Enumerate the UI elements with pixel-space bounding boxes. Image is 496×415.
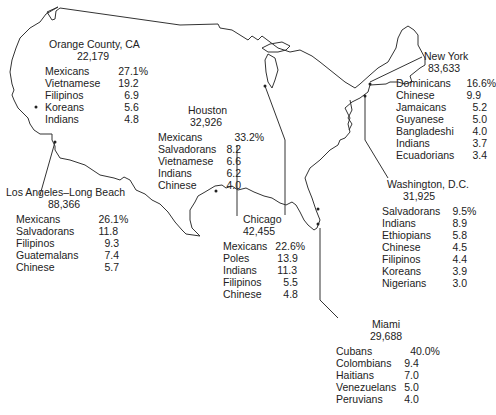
city-name: Washington, D.C. <box>371 178 476 190</box>
group-table: Cubans40.0% Colombians9.4 Haitians7.0 Ve… <box>336 345 440 405</box>
table-row: Guatemalans7.4 <box>16 249 128 261</box>
table-row: Haitians7.0 <box>336 369 440 381</box>
table-row: Salvadorans9.5% <box>382 205 476 217</box>
city-label-chicago: Chicago 42,455 Mexicans22.6% Poles13.9 I… <box>223 213 305 300</box>
table-row: Mexicans33.2% <box>158 131 264 143</box>
table-row: Dominicans16.6% <box>396 77 496 89</box>
city-label-washington-dc: Washington, D.C. 31,925 Salvadorans9.5% … <box>371 178 476 289</box>
table-row: Mexicans22.6% <box>223 240 305 252</box>
city-name: New York <box>396 50 496 62</box>
table-row: Indians11.3 <box>223 264 305 276</box>
table-row: Colombians9.4 <box>336 357 440 369</box>
city-label-new-york: New York 83,633 Dominicans16.6% Chinese9… <box>396 50 496 161</box>
table-row: Chinese9.9 <box>396 89 496 101</box>
city-total: 32,926 <box>158 116 264 128</box>
table-row: Bangladeshi4.0 <box>396 125 496 137</box>
table-row: Chinese5.7 <box>16 261 128 273</box>
table-row: Koreans3.9 <box>382 265 476 277</box>
table-row: Indians8.9 <box>382 217 476 229</box>
table-row: Mexicans27.1% <box>45 65 148 77</box>
city-total: 29,688 <box>334 330 440 342</box>
city-name: Chicago <box>223 213 305 225</box>
table-row: Salvadorans11.8 <box>16 225 128 237</box>
group-table: Dominicans16.6% Chinese9.9 Jamaicans5.2 … <box>396 77 496 161</box>
table-row: Vietnamese6.6 <box>158 155 264 167</box>
table-row: Indians6.2 <box>158 167 264 179</box>
city-label-houston: Houston 32,926 Mexicans33.2% Salvadorans… <box>158 104 264 191</box>
table-row: Koreans5.6 <box>45 101 148 113</box>
table-row: Poles13.9 <box>223 252 305 264</box>
table-row: Indians3.7 <box>396 137 496 149</box>
city-total: 22,179 <box>45 50 148 62</box>
table-row: Cubans40.0% <box>336 345 440 357</box>
group-table: Mexicans27.1% Vietnamese19.2 Filipinos6.… <box>45 65 148 125</box>
city-name: Miami <box>334 318 440 330</box>
city-label-orange-county: Orange County, CA 22,179 Mexicans27.1% V… <box>45 38 148 125</box>
city-name: Los Angeles–Long Beach <box>6 186 128 198</box>
table-row: Indians4.8 <box>45 113 148 125</box>
group-table: Salvadorans9.5% Indians8.9 Ethiopians5.8… <box>382 205 476 289</box>
city-label-los-angeles: Los Angeles–Long Beach 88,366 Mexicans26… <box>6 186 128 273</box>
table-row: Chinese4.0 <box>158 179 264 191</box>
table-row: Filipinos9.3 <box>16 237 128 249</box>
city-name: Houston <box>158 104 264 116</box>
table-row: Peruvians4.0 <box>336 393 440 405</box>
table-row: Filipinos4.4 <box>382 253 476 265</box>
group-table: Mexicans26.1% Salvadorans11.8 Filipinos9… <box>16 213 128 273</box>
table-row: Mexicans26.1% <box>16 213 128 225</box>
table-row: Guyanese5.0 <box>396 113 496 125</box>
table-row: Nigerians3.0 <box>382 277 476 289</box>
table-row: Venezuelans5.0 <box>336 381 440 393</box>
table-row: Ecuadorians3.4 <box>396 149 496 161</box>
city-total: 83,633 <box>396 62 496 74</box>
table-row: Filipinos5.5 <box>223 276 305 288</box>
city-total: 42,455 <box>223 225 305 237</box>
table-row: Chinese4.5 <box>382 241 476 253</box>
group-table: Mexicans33.2% Salvadorans8.2 Vietnamese6… <box>158 131 264 191</box>
table-row: Salvadorans8.2 <box>158 143 264 155</box>
table-row: Ethiopians5.8 <box>382 229 476 241</box>
city-label-miami: Miami 29,688 Cubans40.0% Colombians9.4 H… <box>334 318 440 405</box>
table-row: Vietnamese19.2 <box>45 77 148 89</box>
city-name: Orange County, CA <box>45 38 148 50</box>
table-row: Filipinos6.9 <box>45 89 148 101</box>
city-total: 88,366 <box>6 198 128 210</box>
group-table: Mexicans22.6% Poles13.9 Indians11.3 Fili… <box>223 240 305 300</box>
table-row: Jamaicans5.2 <box>396 101 496 113</box>
city-total: 31,925 <box>371 190 476 202</box>
table-row: Chinese4.8 <box>223 288 305 300</box>
